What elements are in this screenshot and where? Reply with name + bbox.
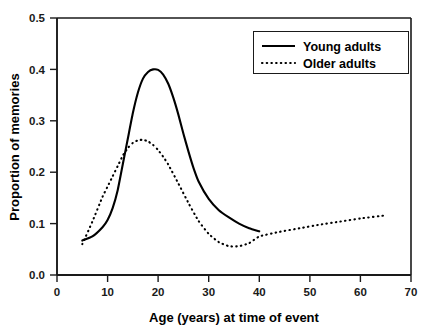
x-tick-label-6: 60: [354, 286, 367, 298]
y-tick-label-5: 0.5: [29, 12, 46, 24]
x-tick-label-3: 30: [202, 286, 215, 298]
legend-label-young-adults: Young adults: [303, 40, 381, 54]
data-series-group: [82, 69, 385, 246]
chart-legend: Young adults Older adults: [254, 32, 409, 74]
x-axis-ticks: [57, 275, 411, 282]
memory-proportion-chart: 0.0 0.1 0.2 0.3 0.4 0.5 0 10 20 30 40 50…: [0, 0, 438, 334]
series-line-older-adults: [82, 140, 385, 247]
y-axis-ticks: [50, 18, 57, 275]
x-axis-tick-labels: 0 10 20 30 40 50 60 70: [54, 286, 418, 298]
chart-canvas: 0.0 0.1 0.2 0.3 0.4 0.5 0 10 20 30 40 50…: [0, 0, 438, 334]
y-tick-label-1: 0.1: [29, 218, 46, 230]
x-tick-label-0: 0: [54, 286, 60, 298]
y-axis-title: Proportion of memories: [7, 73, 22, 220]
x-axis-title: Age (years) at time of event: [149, 310, 319, 325]
x-tick-label-4: 40: [253, 286, 266, 298]
y-tick-label-4: 0.4: [29, 64, 46, 76]
x-tick-label-7: 70: [405, 286, 418, 298]
legend-label-older-adults: Older adults: [303, 57, 376, 71]
x-tick-label-1: 10: [101, 286, 114, 298]
x-tick-label-2: 20: [152, 286, 165, 298]
series-line-young-adults: [82, 69, 259, 240]
y-tick-label-3: 0.3: [29, 115, 45, 127]
y-axis-tick-labels: 0.0 0.1 0.2 0.3 0.4 0.5: [29, 12, 46, 281]
y-tick-label-0: 0.0: [29, 269, 45, 281]
y-tick-label-2: 0.2: [29, 166, 45, 178]
x-tick-label-5: 50: [304, 286, 317, 298]
